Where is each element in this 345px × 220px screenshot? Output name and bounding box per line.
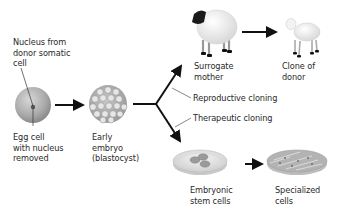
stem-cell-dish-icon	[173, 150, 227, 175]
therapeutic-pointer	[175, 118, 191, 127]
arrow-to-stem-cells	[156, 104, 180, 141]
specialized-cell-dish-icon	[267, 150, 327, 175]
reproductive-pointer	[172, 88, 191, 98]
label-clone-of-donor: Clone of donor	[282, 61, 315, 82]
label-therapeutic-cloning: Therapeutic cloning	[193, 113, 272, 124]
label-specialized-cells: Specialized cells	[275, 185, 320, 206]
label-reproductive-cloning: Reproductive cloning	[193, 93, 277, 104]
label-egg-cell: Egg cell with nucleus removed	[13, 132, 63, 164]
label-nucleus-from-donor: Nucleus from donor somatic cell	[13, 37, 70, 69]
label-early-embryo: Early embryo (blastocyst)	[92, 132, 139, 164]
label-surrogate-mother: Surrogate mother	[194, 61, 233, 82]
clone-lamb-icon	[286, 19, 320, 58]
label-embryonic-stem-cells: Embryonic stem cells	[190, 185, 233, 206]
blastocyst-icon	[89, 85, 127, 123]
surrogate-sheep-icon	[192, 10, 237, 57]
arrow-to-surrogate	[156, 66, 181, 104]
